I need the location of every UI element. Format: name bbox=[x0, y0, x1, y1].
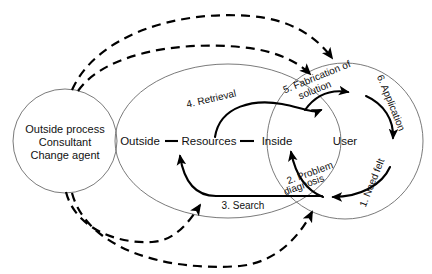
dashed-arrow-consultant-to-fabrication-inner bbox=[78, 46, 310, 91]
outside-process-line2: Consultant bbox=[39, 136, 92, 148]
node-labels: Outside process Consultant Change agent … bbox=[25, 123, 357, 161]
dashed-arrow-consultant-to-fabrication-outer bbox=[72, 15, 332, 90]
arrow-4-retrieval bbox=[215, 102, 321, 137]
outside-process-line1: Outside process bbox=[25, 123, 105, 135]
diagram-canvas: Outside process Consultant Change agent … bbox=[0, 0, 432, 274]
step-label-4-retrieval: 4. Retrieval bbox=[185, 88, 237, 110]
dashed-arrow-consultant-to-problem-diagnosis bbox=[72, 193, 312, 267]
dashed-arrow-consultant-to-search bbox=[66, 192, 200, 242]
node-label-user: User bbox=[333, 135, 357, 147]
step-label-1-need-felt: 1. Need felt bbox=[357, 157, 386, 209]
node-label-resources: Resources bbox=[182, 135, 237, 147]
step-label-3-search: 3. Search bbox=[222, 200, 265, 211]
outside-process-line3: Change agent bbox=[30, 149, 99, 161]
diagram-svg: Outside process Consultant Change agent … bbox=[0, 0, 432, 274]
node-label-outside: Outside bbox=[120, 135, 160, 147]
node-label-inside: Inside bbox=[262, 135, 293, 147]
